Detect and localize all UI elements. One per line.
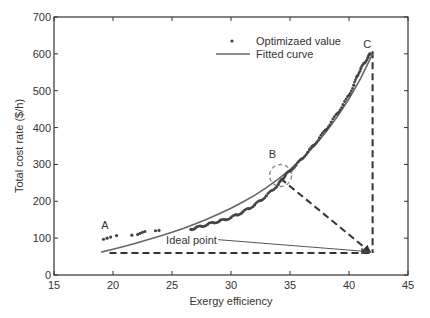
x-tick-label: 25: [166, 279, 178, 291]
fitted-curve: [101, 54, 372, 252]
x-tick-label: 30: [225, 279, 237, 291]
axes-frame: [54, 17, 408, 275]
scatter-points: [102, 52, 372, 241]
y-tick-label: 200: [33, 195, 51, 207]
y-axis-label: Total cost rate ($/h): [13, 99, 25, 193]
legend: Optimizaed valueFitted curve: [216, 35, 341, 60]
y-tick-label: 700: [33, 11, 51, 23]
plot-area: ABCIdeal point: [101, 38, 372, 253]
legend-label: Optimizaed value: [256, 35, 341, 47]
x-tick-label: 45: [402, 279, 414, 291]
y-tick-label: 0: [45, 269, 51, 281]
chart: ABCIdeal point 1520253035404501002003004…: [0, 0, 430, 318]
axes: 152025303540450100200300400500600700: [33, 11, 414, 291]
x-tick-label: 35: [284, 279, 296, 291]
ideal-point-arrow: [218, 240, 370, 252]
y-tick-label: 500: [33, 85, 51, 97]
y-tick-label: 300: [33, 158, 51, 170]
y-tick-label: 400: [33, 122, 51, 134]
guide-line: [281, 178, 371, 252]
y-tick-label: 600: [33, 48, 51, 60]
legend-label: Fitted curve: [256, 48, 313, 60]
y-tick-label: 100: [33, 232, 51, 244]
annotation-b: B: [269, 148, 276, 160]
x-axis-label: Exergy efficiency: [190, 295, 273, 307]
x-tick-label: 20: [107, 279, 119, 291]
x-tick-label: 40: [343, 279, 355, 291]
legend-dot-icon: [230, 39, 233, 42]
annotation-c: C: [363, 38, 371, 50]
annotation-a: A: [101, 219, 109, 231]
annotation-ideal-point: Ideal point: [166, 234, 217, 246]
